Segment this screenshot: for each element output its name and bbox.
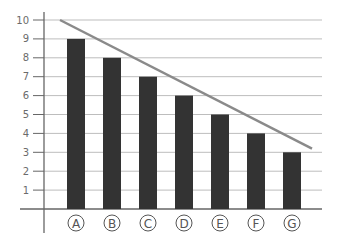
bar-b bbox=[103, 58, 121, 209]
y-tick-label: 2 bbox=[23, 166, 29, 177]
category-label-f: F bbox=[253, 217, 260, 231]
bar-g bbox=[283, 152, 301, 209]
y-tick-label: 5 bbox=[23, 109, 29, 120]
y-tick-label: 4 bbox=[23, 128, 29, 139]
category-label-a: A bbox=[72, 217, 81, 231]
category-label-b: B bbox=[108, 217, 116, 231]
bar-c bbox=[139, 77, 157, 209]
category-label-d: D bbox=[179, 217, 188, 231]
bar-chart: 12345678910ABCDEFG bbox=[0, 0, 341, 251]
category-label-c: C bbox=[144, 217, 152, 231]
y-tick-label: 3 bbox=[23, 147, 29, 158]
category-label-g: G bbox=[287, 217, 296, 231]
y-tick-label: 6 bbox=[23, 90, 29, 101]
bar-d bbox=[175, 96, 193, 209]
y-tick-label: 7 bbox=[23, 71, 29, 82]
y-tick-label: 9 bbox=[23, 33, 29, 44]
category-label-e: E bbox=[216, 217, 224, 231]
y-tick-label: 10 bbox=[16, 15, 29, 26]
y-tick-label: 8 bbox=[23, 52, 29, 63]
bar-a bbox=[67, 39, 85, 209]
bar-e bbox=[211, 115, 229, 210]
bar-f bbox=[247, 133, 265, 209]
y-tick-label: 1 bbox=[23, 185, 29, 196]
